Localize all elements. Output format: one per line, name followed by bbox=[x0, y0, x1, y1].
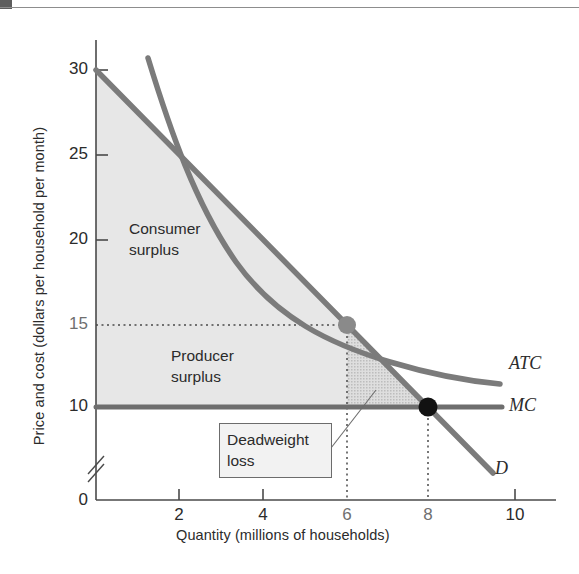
x-tick-label-8: 8 bbox=[408, 505, 448, 525]
x-tick-label-4: 4 bbox=[243, 505, 283, 525]
x-axis-title: Quantity (millions of households) bbox=[176, 527, 576, 543]
region-producer-surplus bbox=[96, 325, 347, 407]
y-tick-label-10: 10 bbox=[44, 396, 88, 416]
y-tick-label-30: 30 bbox=[44, 59, 88, 79]
y-axis-title: Price and cost (dollars per household pe… bbox=[31, 71, 47, 501]
label-producer-surplus-line2: surplus bbox=[171, 366, 221, 387]
x-tick-label-2: 2 bbox=[159, 505, 199, 525]
label-deadweight-loss-line2: loss bbox=[220, 450, 331, 471]
label-deadweight-loss-line1: Deadweight bbox=[220, 424, 331, 450]
marker-monopoly-outcome bbox=[338, 316, 356, 334]
curve-label-mc: MC bbox=[509, 395, 536, 416]
label-producer-surplus-line1: Producer bbox=[171, 345, 234, 366]
x-tick-label-10: 10 bbox=[495, 505, 535, 525]
y-tick-label-25: 25 bbox=[44, 144, 88, 164]
y-tick-label-20: 20 bbox=[44, 229, 88, 249]
marker-efficient-outcome bbox=[419, 398, 438, 417]
x-tick-label-6: 6 bbox=[327, 505, 367, 525]
figure-container: Price and cost (dollars per household pe… bbox=[0, 0, 579, 574]
y-tick-label-0: 0 bbox=[44, 490, 88, 510]
y-tick-label-15: 15 bbox=[44, 314, 88, 334]
chart-plot-area bbox=[0, 0, 579, 574]
label-consumer-surplus-line1: Consumer bbox=[129, 218, 201, 239]
curve-label-atc: ATC bbox=[509, 353, 541, 374]
curve-label-demand: D bbox=[495, 458, 508, 479]
callout-deadweight-loss: Deadweight loss bbox=[219, 423, 332, 478]
label-consumer-surplus-line2: surplus bbox=[129, 239, 179, 260]
